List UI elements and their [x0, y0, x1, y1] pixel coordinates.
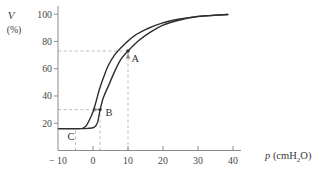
x-tick-label: 20 [158, 155, 168, 166]
point-A-label: A [132, 53, 140, 64]
curve-expiration-limb [83, 15, 228, 129]
curves [58, 15, 228, 129]
y-tick-label: 60 [42, 63, 52, 74]
arrowhead-up-icon [126, 54, 131, 59]
y-tick-label: 40 [42, 90, 52, 101]
y-tick-label: 20 [42, 118, 52, 129]
y-axis-title-symbol: V [8, 9, 16, 21]
point-A-dot [126, 49, 129, 52]
point-C-label: C [68, 131, 75, 142]
pv-curve-chart: 20406080100− 10010203040V(%)p (cmH2O)ABC [0, 0, 323, 178]
x-axis-title: p (cmH2O) [264, 150, 312, 164]
x-axis-ticks: − 10010203040 [49, 146, 238, 166]
y-axis-title-unit: (%) [7, 24, 22, 36]
point-B-label: B [106, 107, 113, 118]
x-tick-label: 40 [228, 155, 238, 166]
x-tick-label: 0 [91, 155, 96, 166]
pv-curve-figure: 20406080100− 10010203040V(%)p (cmH2O)ABC [0, 0, 323, 178]
x-tick-label: 10 [123, 155, 133, 166]
axis-titles: V(%)p (cmH2O) [7, 9, 312, 164]
y-tick-label: 80 [42, 36, 52, 47]
x-tick-label: 30 [193, 155, 203, 166]
point-B-dot [98, 108, 101, 111]
x-tick-label: − 10 [49, 155, 67, 166]
y-tick-label: 100 [37, 9, 52, 20]
y-axis-ticks: 20406080100 [37, 9, 58, 129]
